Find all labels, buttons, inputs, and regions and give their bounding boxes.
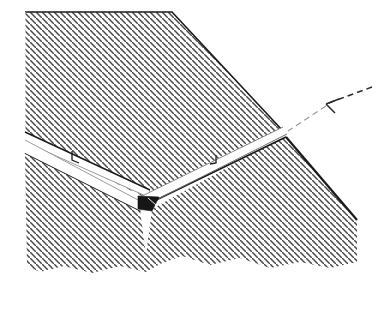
- motion-arrow: [288, 87, 372, 131]
- diagram-canvas: [0, 0, 384, 316]
- motion-arrow-trace: [288, 106, 326, 131]
- figure-root: Hatched block cross-section with fault s…: [0, 0, 384, 316]
- arrow-head-icon: [326, 99, 339, 113]
